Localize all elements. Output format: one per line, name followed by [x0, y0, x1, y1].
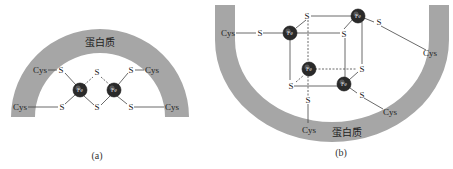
sulfur-label: S	[305, 95, 310, 105]
fe-atom: Fe	[351, 9, 365, 23]
sulfur-label: S	[58, 65, 63, 75]
sulfur-label: S	[304, 11, 309, 21]
cysteine-label: Cys	[221, 28, 236, 38]
fe-atom: Fe	[302, 62, 316, 76]
caption-a: (a)	[91, 150, 102, 162]
svg-text:Fe: Fe	[355, 13, 361, 19]
sulfur-label: S	[341, 29, 346, 39]
svg-text:Fe: Fe	[77, 87, 83, 93]
panel-a: 蛋白质 Fe Fe S S S	[11, 29, 189, 162]
sulfur-label: S	[128, 102, 133, 112]
svg-text:Fe: Fe	[287, 30, 293, 36]
cysteine-label: Cys	[145, 65, 160, 75]
panel-b: 蛋白质	[215, 5, 449, 159]
svg-text:Fe: Fe	[306, 66, 312, 72]
fe-atom: Fe	[107, 83, 121, 97]
svg-text:Fe: Fe	[111, 87, 117, 93]
svg-text:Fe: Fe	[341, 81, 347, 87]
caption-b: (b)	[335, 147, 347, 159]
sulfur-label: S	[376, 17, 381, 27]
protein-label: 蛋白质	[85, 36, 115, 48]
protein-label: 蛋白质	[332, 126, 362, 138]
sulfur-label: S	[288, 81, 293, 91]
sulfur-label: S	[257, 28, 262, 38]
sulfur-label: S	[94, 67, 99, 77]
sulfur-label: S	[128, 65, 133, 75]
cysteine-label: Cys	[33, 65, 48, 75]
iron-sulfur-cluster-figure: 蛋白质 Fe Fe S S S	[0, 0, 453, 169]
fe-atom: Fe	[73, 83, 87, 97]
sulfur-label: S	[94, 102, 99, 112]
sulfur-label: S	[359, 90, 364, 100]
cysteine-label: Cys	[302, 125, 317, 135]
cysteine-label: Cys	[165, 102, 180, 112]
fe-atom: Fe	[337, 77, 351, 91]
cysteine-label: Cys	[423, 48, 438, 58]
cysteine-label: Cys	[383, 107, 398, 117]
fe-atom: Fe	[283, 26, 297, 40]
protein-bowl-band	[215, 5, 449, 142]
cysteine-label: Cys	[13, 102, 28, 112]
sulfur-label: S	[359, 64, 364, 74]
sulfur-label: S	[59, 102, 64, 112]
